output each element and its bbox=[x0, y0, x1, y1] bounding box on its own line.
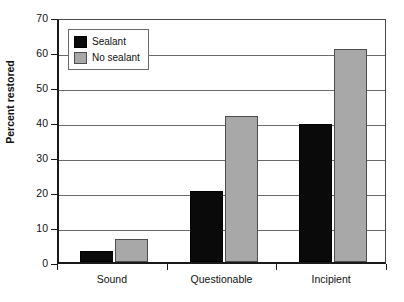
y-axis-label: 0 bbox=[8, 258, 48, 269]
bar-sound-no-sealant bbox=[115, 239, 148, 262]
y-axis-tick bbox=[51, 194, 57, 195]
y-axis-label: 60 bbox=[8, 48, 48, 59]
bar-incipient-no-sealant bbox=[334, 49, 367, 262]
y-axis-label: 40 bbox=[8, 118, 48, 129]
x-axis-tick bbox=[167, 264, 168, 270]
y-axis-label: 70 bbox=[8, 13, 48, 24]
x-axis-label-sound: Sound bbox=[52, 274, 172, 285]
x-axis-label-questionable: Questionable bbox=[162, 274, 282, 285]
x-axis-tick bbox=[386, 264, 387, 270]
y-axis-tick bbox=[51, 159, 57, 160]
y-axis-tick bbox=[51, 229, 57, 230]
y-axis-tick bbox=[51, 19, 57, 20]
legend-swatch-sealant bbox=[74, 36, 87, 48]
y-axis-title: Percent restored bbox=[4, 42, 16, 162]
legend-item-no-sealant: No sealant bbox=[74, 50, 143, 65]
bar-chart: Percent restored 010203040506070 SoundQu… bbox=[0, 0, 404, 302]
y-axis-tick bbox=[51, 54, 57, 55]
x-axis-tick bbox=[57, 264, 58, 270]
legend-label-sealant: Sealant bbox=[92, 37, 126, 47]
x-axis-tick bbox=[276, 264, 277, 270]
bar-incipient-sealant bbox=[299, 124, 332, 262]
legend-label-no-sealant: No sealant bbox=[92, 53, 140, 63]
y-axis-label: 50 bbox=[8, 83, 48, 94]
bar-sound-sealant bbox=[80, 251, 113, 262]
y-axis-label: 30 bbox=[8, 153, 48, 164]
y-axis-label: 20 bbox=[8, 188, 48, 199]
y-axis-label: 10 bbox=[8, 223, 48, 234]
legend: Sealant No sealant bbox=[68, 29, 149, 70]
legend-item-sealant: Sealant bbox=[74, 34, 143, 49]
bar-questionable-sealant bbox=[190, 191, 223, 262]
y-axis-tick bbox=[51, 89, 57, 90]
x-axis-label-incipient: Incipient bbox=[271, 274, 391, 285]
y-axis-tick bbox=[51, 124, 57, 125]
bar-questionable-no-sealant bbox=[225, 116, 258, 262]
legend-swatch-no-sealant bbox=[74, 52, 87, 64]
